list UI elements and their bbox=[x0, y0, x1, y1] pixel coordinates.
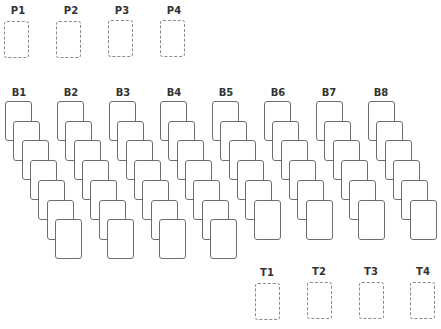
free-cell-p1[interactable] bbox=[4, 21, 29, 58]
playing-card[interactable] bbox=[159, 219, 186, 259]
free-cell-p3[interactable] bbox=[108, 20, 133, 57]
tableau-column-label: B8 bbox=[366, 87, 396, 99]
free-cell-p2[interactable] bbox=[56, 21, 81, 58]
tableau-column-label: B4 bbox=[159, 87, 189, 99]
foundation-label: T3 bbox=[356, 266, 386, 278]
foundation-label: T2 bbox=[304, 266, 334, 278]
playing-card[interactable] bbox=[254, 200, 281, 240]
playing-card[interactable] bbox=[358, 200, 385, 240]
free-cell-label: P4 bbox=[159, 5, 189, 17]
foundation-t4[interactable] bbox=[410, 282, 435, 319]
playing-card[interactable] bbox=[306, 200, 333, 240]
tableau-column-label: B2 bbox=[56, 87, 86, 99]
tableau-column-label: B1 bbox=[4, 87, 34, 99]
playing-card[interactable] bbox=[107, 219, 134, 259]
free-cell-p4[interactable] bbox=[160, 20, 185, 57]
free-cell-label: P3 bbox=[107, 5, 137, 17]
foundation-label: T4 bbox=[408, 266, 438, 278]
tableau-column-label: B5 bbox=[211, 87, 241, 99]
playing-card[interactable] bbox=[410, 200, 437, 240]
playing-card[interactable] bbox=[210, 219, 237, 259]
playing-card[interactable] bbox=[55, 219, 82, 259]
foundation-t3[interactable] bbox=[359, 282, 384, 319]
foundation-label: T1 bbox=[252, 267, 282, 279]
tableau-column-label: B6 bbox=[263, 87, 293, 99]
foundation-t1[interactable] bbox=[255, 283, 280, 320]
foundation-t2[interactable] bbox=[307, 282, 332, 319]
tableau-column-label: B7 bbox=[314, 87, 344, 99]
tableau-column-label: B3 bbox=[108, 87, 138, 99]
free-cell-label: P1 bbox=[3, 5, 33, 17]
free-cell-label: P2 bbox=[56, 5, 86, 17]
